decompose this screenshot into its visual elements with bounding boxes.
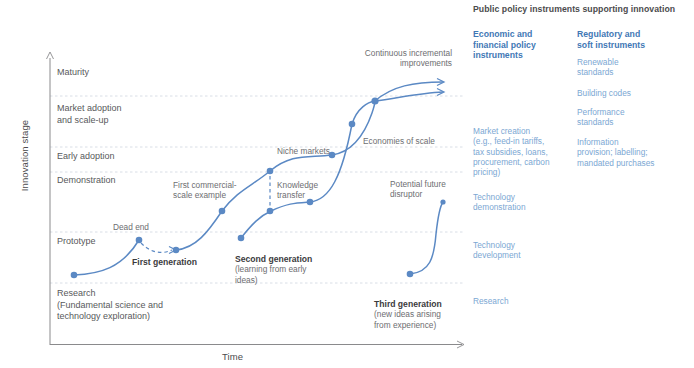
annotation-niche-markets: Niche markets [277,146,330,156]
panel-item-technology-demonstration: Technology demonstration [473,192,575,213]
annotation-potential-future-disruptor: Potential future disruptor [390,179,446,200]
stage-label-research: Research (Fundamental science and techno… [57,288,163,323]
annotation-knowledge-transfer: Knowledge transfer [277,180,318,201]
annotation-second-generation: Second generation (learning from early i… [235,243,312,296]
annotation-third-generation-sub: (new ideas arising from experience) [374,309,442,330]
stage-label-maturity: Maturity [57,67,89,79]
panel-item-renewable-standards: Renewable standards [577,57,689,78]
annotation-first-generation: First generation [132,257,197,268]
figure-root: Innovation stage Time Maturity Market ad… [0,0,694,368]
panel-item-performance-standards: Performance standards [577,107,689,128]
curve-second-generation [241,92,443,238]
annotation-third-generation-title: Third generation [374,299,442,309]
annotation-first-commercial-scale: First commercial- scale example [173,180,237,201]
stage-label-market-adoption: Market adoption and scale-up [57,103,122,126]
annotation-dead-end: Dead end [113,222,149,232]
annotation-continuous-improvements: Continuous incremental improvements [306,48,452,69]
annotation-second-generation-title: Second generation [235,254,312,264]
policy-instruments-panel: Public policy instruments supporting inn… [465,0,694,368]
panel-title: Public policy instruments supporting inn… [473,4,675,14]
annotation-economies-of-scale: Economies of scale [363,136,435,146]
panel-item-information-provision: Information provision; labelling; mandat… [577,137,689,168]
column-heading-economic: Economic and financial policy instrument… [473,29,575,61]
y-axis-title: Innovation stage [19,101,30,211]
curve-third-generation [410,202,443,274]
x-axis-title: Time [222,351,243,362]
annotation-third-generation: Third generation (new ideas arising from… [374,288,442,341]
panel-item-building-codes: Building codes [577,88,689,98]
innovation-chart: Innovation stage Time Maturity Market ad… [0,0,465,368]
stage-label-early-adoption: Early adoption [57,151,115,163]
panel-item-research: Research [473,296,575,306]
annotation-second-generation-sub: (learning from early ideas) [235,264,312,285]
stage-label-demonstration: Demonstration [57,175,116,187]
panel-item-technology-development: Technology development [473,240,575,261]
stage-label-prototype: Prototype [57,236,96,248]
column-heading-regulatory: Regulatory and soft instruments [577,29,689,50]
panel-item-market-creation: Market creation (e.g., feed-in tariffs, … [473,126,575,177]
